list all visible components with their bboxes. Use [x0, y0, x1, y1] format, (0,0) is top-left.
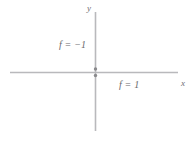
label-f-equals-one: f = 1 [119, 80, 139, 90]
x-axis-label: x [181, 79, 185, 88]
point-below-origin-marker [94, 74, 97, 77]
point-above-origin-marker [94, 67, 97, 70]
label-f-equals-negative-one: f = −1 [59, 40, 86, 50]
math-figure: y x f = −1 f = 1 [0, 0, 194, 147]
y-axis-label: y [87, 4, 91, 13]
axes-diagram [0, 0, 194, 147]
